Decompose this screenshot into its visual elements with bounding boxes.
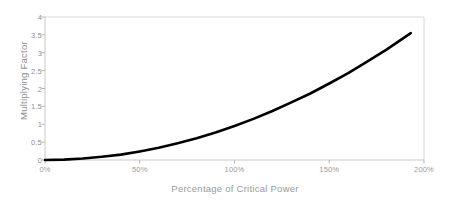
plot-svg (0, 0, 450, 203)
plot-frame (45, 17, 424, 160)
chart-container: Multiplying Factor Percentage of Critica… (0, 0, 450, 203)
axis-tick-marks (42, 17, 425, 164)
data-series-group (45, 33, 411, 160)
